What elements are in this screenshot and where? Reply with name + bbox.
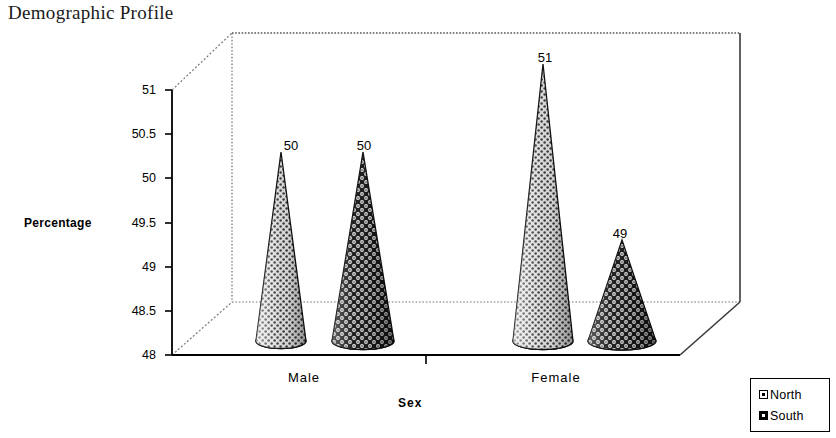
chart-root: Demographic Profile: [0, 0, 836, 438]
y-axis-title: Percentage: [24, 216, 92, 230]
y-tick-label-49-5: 49.5: [104, 216, 156, 230]
legend-item-south[interactable]: South: [759, 405, 829, 426]
data-label-female-south: 49: [613, 226, 627, 241]
x-tick-label-male: Male: [288, 370, 320, 385]
data-label-male-north: 50: [284, 138, 298, 153]
y-tick-label-48: 48: [104, 348, 156, 362]
y-tick-label-48-5: 48.5: [104, 304, 156, 318]
y-tick-label-51: 51: [104, 83, 156, 97]
chart-legend: North South: [750, 378, 830, 432]
legend-item-north[interactable]: North: [759, 384, 829, 405]
x-tick-label-female: Female: [531, 370, 580, 385]
data-label-male-south: 50: [357, 138, 371, 153]
back-wall: [232, 33, 740, 302]
y-tick-label-49: 49: [104, 260, 156, 274]
y-tick-label-50: 50: [104, 171, 156, 185]
x-axis-title: Sex: [398, 396, 422, 410]
south-swatch-icon: [759, 411, 768, 420]
y-tick-label-50-5: 50.5: [104, 127, 156, 141]
data-label-female-north: 51: [538, 50, 552, 65]
north-swatch-icon: [759, 390, 768, 399]
legend-label-north: North: [770, 388, 802, 402]
y-axis-ticks: [165, 90, 172, 355]
legend-label-south: South: [770, 409, 804, 423]
